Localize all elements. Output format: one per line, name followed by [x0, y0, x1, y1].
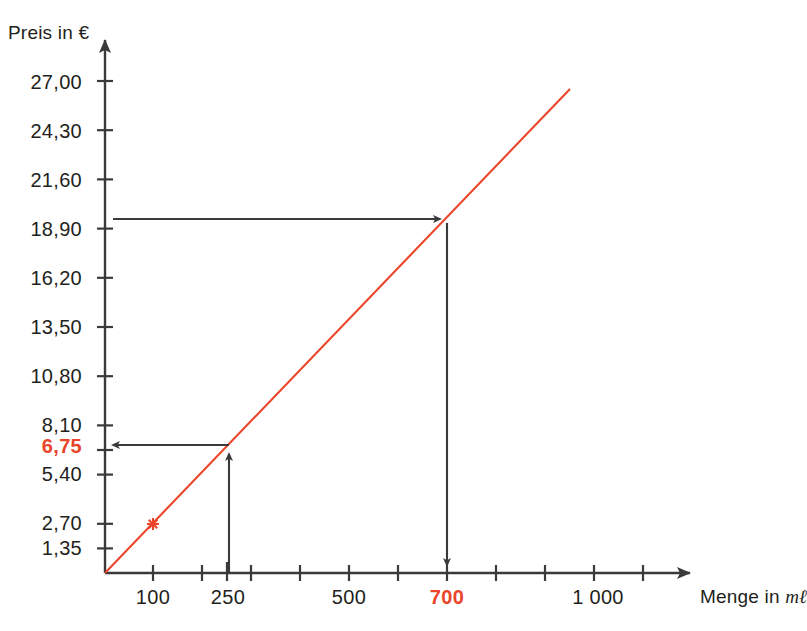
y-axis-title: Preis in € [8, 22, 89, 44]
y-axis [97, 40, 113, 573]
y-tick-label-8-10: 8,10 [0, 414, 82, 437]
x-axis [105, 562, 690, 581]
y-tick-label-10-80: 10,80 [0, 365, 82, 388]
x-axis-ticks [153, 562, 643, 581]
x-tick-label-1000: 1 000 [553, 586, 643, 609]
x-tick-label-700: 700 [407, 586, 487, 609]
reading-250-to-675 [113, 445, 229, 573]
y-tick-label-16-20: 16,20 [0, 267, 82, 290]
x-tick-label-250: 250 [188, 586, 268, 609]
x-axis-title-text: Menge in [700, 586, 785, 607]
y-tick-label-2-70: 2,70 [0, 512, 82, 535]
x-tick-label-100: 100 [113, 586, 193, 609]
y-tick-label-21-60: 21,60 [0, 169, 82, 192]
y-tick-label-1-35: 1,35 [0, 537, 82, 560]
x-axis-title: Menge in mℓ [700, 586, 807, 608]
reference-point-marker [147, 518, 159, 530]
y-tick-label-24-30: 24,30 [0, 120, 82, 143]
y-tick-label-27-00: 27,00 [0, 71, 82, 94]
x-tick-label-500: 500 [309, 586, 389, 609]
y-tick-label-13-50: 13,50 [0, 316, 82, 339]
y-tick-label-5-40: 5,40 [0, 463, 82, 486]
price-line [105, 89, 570, 573]
y-tick-label-18-90: 18,90 [0, 218, 82, 241]
y-tick-label-6-75: 6,75 [0, 435, 82, 458]
x-axis-title-unit: mℓ [785, 586, 807, 607]
